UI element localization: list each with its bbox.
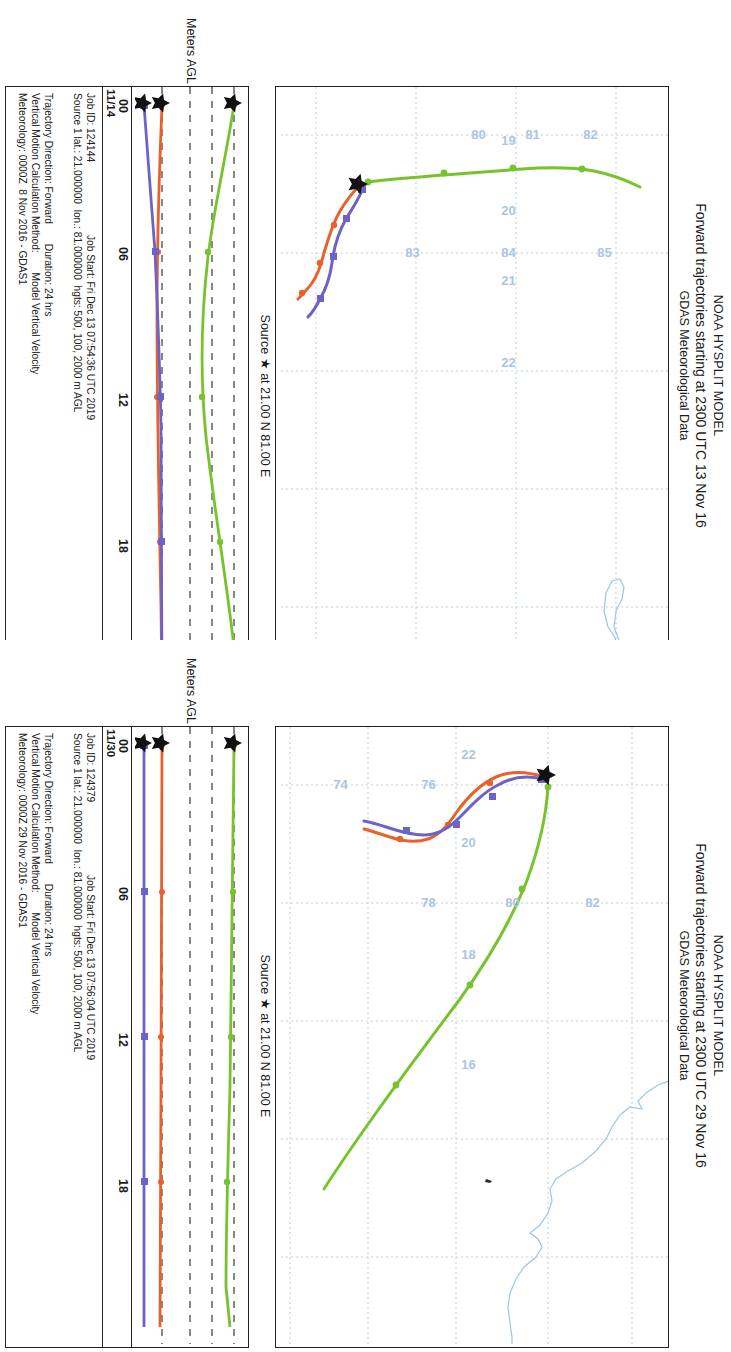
time-tick: 12 <box>116 393 130 407</box>
map-lon-tick: 74 <box>333 777 347 792</box>
footer-metadata: Job ID: 124144 Job Start: Fri Dec 13 07:… <box>5 86 103 708</box>
height-profile-plot: 2000 1500 1000 500 2000 500 100 <box>131 726 249 1348</box>
time-tick: 18 <box>116 539 130 553</box>
met-title: GDAS Meteorological Data <box>676 640 692 1352</box>
trajectory-2000m <box>324 787 548 1189</box>
profile-start-tick: 2000 <box>232 86 246 707</box>
map-lat-tick: 22 <box>461 747 475 762</box>
profile-start-tick: 2000 <box>232 726 246 1347</box>
panel-title-block: NOAA HYSPLIT MODEL Forward trajectories … <box>676 0 725 731</box>
map-lat-tick: 21 <box>501 273 515 288</box>
map-lat-tick: 16 <box>461 1057 475 1072</box>
map-lat-tick: 20 <box>461 835 475 850</box>
vertical-motion: Vertical Motion Calculation Method: Mode… <box>30 733 41 1014</box>
map-plot: 74 76 78 80 82 16 18 20 22 <box>275 726 669 1348</box>
map-lat-tick: 19 <box>501 133 515 148</box>
time-tick: 00 <box>116 739 130 753</box>
job-start: Job Start: Fri Dec 13 07:56:04 UTC 2019 <box>85 875 96 1060</box>
profile-start-tick: 500 <box>160 726 174 1347</box>
source-word: Source <box>258 315 272 355</box>
traj-direction: Trajectory Direction: Forward Duration: … <box>43 93 54 316</box>
trajectory-500m-markers <box>299 182 363 296</box>
source-info: Source 1 lat.: 21.000000 lon.: 81.000000… <box>72 93 83 412</box>
source-info: Source 1 lat.: 21.000000 lon.: 81.000000… <box>72 733 83 1052</box>
map-lon-tick: 80 <box>471 127 485 142</box>
map-lon-tick: 82 <box>585 895 599 910</box>
star-icon: ★ <box>258 358 273 370</box>
height-profile-plot: 2000 1500 1000 500 2000 500 100 <box>131 86 249 708</box>
trajectory-500m-markers <box>397 774 547 842</box>
profile-y-axis-label: Meters AGL <box>133 646 249 724</box>
met-title: GDAS Meteorological Data <box>676 0 692 731</box>
time-tick: 06 <box>116 247 130 261</box>
map-lon-tick: 76 <box>421 777 435 792</box>
trajectory-2000m-markers <box>393 784 552 1089</box>
map-lon-tick: 80 <box>505 895 519 910</box>
trajectory-500m <box>364 773 544 842</box>
trajectory-2000m <box>368 168 640 187</box>
meteorology: Meteorology: 0000Z 8 Nov 2016 - GDAS1 <box>17 93 28 285</box>
map-lat-tick: 22 <box>501 355 515 370</box>
run-title: Forward trajectories starting at 2300 UT… <box>692 0 710 731</box>
map-lat-tick: 20 <box>501 203 515 218</box>
date-tick: 11/30 <box>105 729 117 757</box>
map-lat-tick: 18 <box>461 947 475 962</box>
map-plot: 80 81 82 83 84 85 22 21 20 19 <box>275 86 669 708</box>
hysplit-panel-29nov: NOAA HYSPLIT MODEL Forward trajectories … <box>0 640 731 1280</box>
star-icon: ★ <box>258 998 273 1010</box>
time-tick: 12 <box>116 1033 130 1047</box>
trajectory-100m-markers <box>317 185 366 302</box>
model-title: NOAA HYSPLIT MODEL <box>710 0 725 731</box>
profile-start-tick: 100 <box>142 86 156 707</box>
trajectory-lines <box>279 87 668 704</box>
time-tick: 18 <box>116 1179 130 1193</box>
time-tick: 06 <box>116 887 130 901</box>
time-tick: 00 <box>116 99 130 113</box>
source-coords: at 21.00 N 81.00 E <box>258 1013 272 1117</box>
hysplit-panel-13nov: NOAA HYSPLIT MODEL Forward trajectories … <box>0 0 731 640</box>
source-caption: Source ★ at 21.00 N 81.00 E <box>258 726 273 1346</box>
model-title: NOAA HYSPLIT MODEL <box>710 640 725 1352</box>
traj-direction: Trajectory Direction: Forward Duration: … <box>43 733 54 956</box>
profile-time-axis: 00 11/14 06 12 18 <box>102 86 133 708</box>
source-word: Source <box>258 955 272 995</box>
map-lon-tick: 81 <box>525 127 539 142</box>
date-tick: 11/14 <box>105 89 117 117</box>
map-lon-tick: 84 <box>501 245 515 260</box>
job-start: Job Start: Fri Dec 13 07:54:36 UTC 2019 <box>85 235 96 420</box>
map-lon-tick: 82 <box>583 127 597 142</box>
map-lon-tick: 83 <box>405 245 419 260</box>
map-lon-tick: 85 <box>597 245 611 260</box>
meteorology: Meteorology: 0000Z 29 Nov 2016 - GDAS1 <box>17 733 28 928</box>
profile-start-tick: 100 <box>142 726 156 1347</box>
panel-title-block: NOAA HYSPLIT MODEL Forward trajectories … <box>676 640 725 1352</box>
profile-y-axis-label: Meters AGL <box>133 6 249 84</box>
job-id: Job ID: 124144 <box>85 93 96 162</box>
source-coords: at 21.00 N 81.00 E <box>258 373 272 477</box>
run-title: Forward trajectories starting at 2300 UT… <box>692 640 710 1352</box>
map-lon-tick: 78 <box>421 895 435 910</box>
footer-metadata: Job ID: 124379 Job Start: Fri Dec 13 07:… <box>5 726 103 1348</box>
profile-time-axis: 00 11/30 06 12 18 <box>102 726 133 1348</box>
vertical-motion: Vertical Motion Calculation Method: Mode… <box>30 93 41 374</box>
trajectory-lines <box>279 727 668 1344</box>
trajectory-100m <box>308 188 363 317</box>
profile-start-tick: 500 <box>160 86 174 707</box>
source-caption: Source ★ at 21.00 N 81.00 E <box>258 86 273 706</box>
job-id: Job ID: 124379 <box>85 733 96 802</box>
